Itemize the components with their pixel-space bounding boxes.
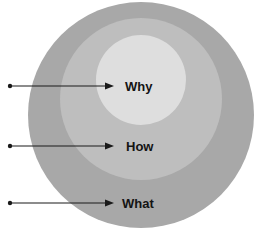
label-how: How	[126, 139, 154, 154]
label-why: Why	[125, 79, 153, 94]
golden-circle-diagram: Why How What	[0, 0, 254, 229]
label-what: What	[122, 196, 154, 211]
